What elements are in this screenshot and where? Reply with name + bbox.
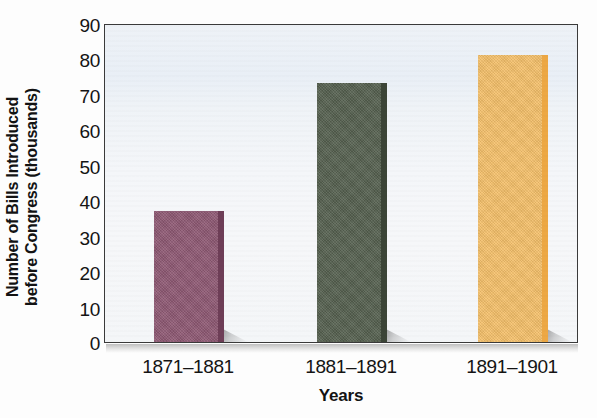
bar-1871-1881 — [154, 211, 224, 342]
y-tick-30: 30 — [58, 229, 100, 248]
x-axis-tick-labels: 1871–1881 1881–1891 1891–1901 — [104, 356, 578, 382]
y-axis-title-line-2: before Congress (thousands) — [23, 88, 40, 306]
bar-chart-figure: Number of Bills Introducedbefore Congres… — [0, 0, 597, 418]
y-tick-60: 60 — [58, 122, 100, 141]
bar-shadow-2 — [383, 326, 411, 342]
x-tick-1891-1901: 1891–1901 — [437, 356, 587, 378]
plot-base-shadow — [106, 344, 578, 353]
plot-area — [104, 24, 578, 343]
y-tick-0: 0 — [58, 334, 100, 353]
x-axis-title: Years — [104, 386, 578, 406]
bar-texture-3 — [478, 55, 548, 342]
y-axis-tick-labels: 90 80 70 60 50 40 30 20 10 0 — [58, 0, 100, 418]
y-tick-50: 50 — [58, 158, 100, 177]
y-axis-title-line-1: Number of Bills Introduced — [4, 97, 21, 297]
bar-edge-1 — [218, 211, 224, 342]
bar-texture-2 — [317, 83, 387, 342]
y-tick-40: 40 — [58, 193, 100, 212]
bar-texture-1 — [154, 211, 224, 342]
bar-1881-1891 — [317, 83, 387, 342]
bar-shadow-3 — [544, 326, 572, 342]
bar-edge-3 — [542, 55, 548, 342]
bar-1891-1901 — [478, 55, 548, 342]
x-tick-1881-1891: 1881–1891 — [276, 356, 426, 378]
y-tick-80: 80 — [58, 51, 100, 70]
y-tick-90: 90 — [58, 16, 100, 35]
bar-shadow-1 — [220, 326, 248, 342]
x-tick-1871-1881: 1871–1881 — [113, 356, 263, 378]
y-tick-70: 70 — [58, 87, 100, 106]
y-tick-10: 10 — [58, 300, 100, 319]
y-tick-20: 20 — [58, 264, 100, 283]
bar-edge-2 — [381, 83, 387, 342]
y-axis-title: Number of Bills Introducedbefore Congres… — [3, 27, 41, 367]
